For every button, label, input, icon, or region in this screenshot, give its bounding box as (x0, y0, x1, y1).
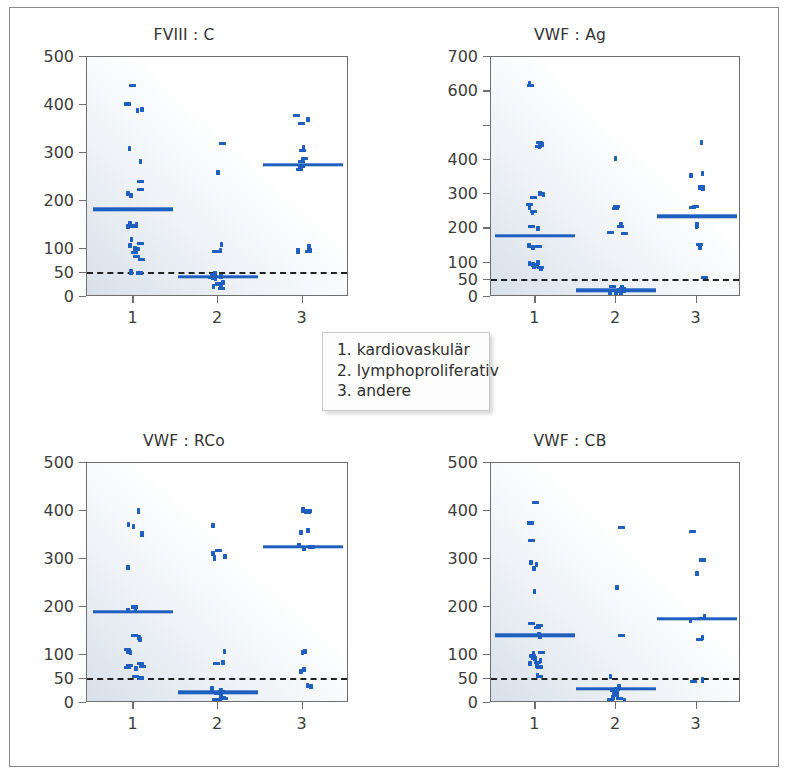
group-mean-bar (263, 163, 343, 166)
x-tick-label: 1 (529, 714, 539, 733)
y-tick-label: 400 (400, 501, 478, 520)
data-point (134, 666, 138, 671)
data-point (126, 224, 130, 229)
data-point (223, 649, 227, 654)
y-tick-label: 200 (20, 191, 74, 210)
data-point (617, 225, 624, 228)
data-point (215, 549, 222, 552)
x-tick-mark (302, 702, 303, 709)
data-point (531, 245, 535, 250)
data-point (221, 660, 225, 665)
x-tick-mark (696, 702, 697, 709)
data-point (130, 237, 134, 242)
data-point (211, 523, 215, 528)
data-point (532, 501, 539, 504)
data-point (296, 248, 300, 253)
group-mean-bar (576, 687, 656, 690)
data-point (527, 84, 534, 87)
y-tick-label: 50 (20, 263, 74, 282)
y-tick-label: 100 (20, 239, 74, 258)
x-tick-mark (217, 702, 218, 709)
data-point (221, 697, 228, 700)
y-tick-mark (79, 272, 86, 273)
data-point (223, 554, 227, 559)
data-point (219, 142, 226, 145)
x-tick-mark (696, 296, 697, 303)
x-tick-label: 3 (296, 714, 306, 733)
data-point (212, 284, 216, 289)
data-point (528, 661, 532, 666)
data-point (615, 585, 619, 590)
y-tick-label: 50 (400, 669, 478, 688)
y-tick-mark (483, 90, 490, 91)
group-mean-bar (657, 215, 737, 218)
y-tick-mark (79, 200, 86, 201)
data-point (137, 180, 144, 183)
y-tick-mark (79, 296, 86, 297)
y-tick-label: 50 (400, 269, 478, 288)
legend-line-2: 2. lymphoproliferativ (337, 361, 473, 382)
reference-line-50 (87, 678, 347, 680)
y-tick-label: 300 (400, 549, 478, 568)
group-mean-bar (93, 610, 173, 613)
data-point (689, 173, 693, 178)
data-point (696, 638, 703, 641)
y-tick-mark (79, 678, 86, 679)
plot-area-fviii-c (86, 56, 348, 296)
y-tick-mark (483, 279, 490, 280)
data-point (132, 524, 136, 529)
data-point (538, 144, 542, 149)
y-tick-label: 400 (20, 95, 74, 114)
x-tick-mark (615, 702, 616, 709)
data-point (137, 676, 144, 679)
data-point (542, 192, 546, 197)
data-point (528, 539, 535, 542)
y-tick-mark (483, 262, 490, 263)
x-tick-label: 3 (296, 308, 306, 327)
panel-title-vwf-ag: VWF : Ag (400, 26, 740, 44)
y-tick-label: 300 (20, 549, 74, 568)
data-point (298, 122, 305, 125)
data-point (623, 698, 627, 702)
x-tick-label: 1 (127, 308, 137, 327)
data-point (128, 243, 132, 248)
y-tick-label: 200 (400, 597, 478, 616)
y-tick-mark (79, 702, 86, 703)
y-tick-mark (79, 510, 86, 511)
data-point (306, 528, 310, 533)
data-point (701, 677, 705, 682)
figure-root: FVIII : C050100200300400500123 VWF : Ag0… (0, 0, 789, 777)
x-tick-mark (534, 296, 535, 303)
group-mean-bar (263, 545, 343, 548)
y-tick-label: 300 (400, 184, 478, 203)
x-tick-mark (217, 296, 218, 303)
data-point (219, 248, 223, 253)
data-point (612, 207, 619, 210)
x-tick-label: 2 (610, 308, 620, 327)
group-legend: 1. kardiovaskulär 2. lymphoproliferativ … (322, 332, 490, 411)
data-point (220, 242, 224, 247)
panel-vwf-rco: VWF : RCo050100200300400500123 (20, 432, 378, 747)
x-tick-label: 2 (212, 714, 222, 733)
group-mean-bar (495, 234, 575, 237)
x-tick-mark (615, 296, 616, 303)
data-point (689, 530, 696, 533)
data-point (137, 188, 144, 191)
data-point (130, 224, 137, 227)
y-tick-label: 0 (400, 693, 478, 712)
y-tick-label: 200 (400, 218, 478, 237)
data-point (539, 266, 543, 271)
x-tick-mark (302, 296, 303, 303)
panel-title-fviii-c: FVIII : C (20, 26, 348, 44)
y-tick-label: 100 (400, 252, 478, 271)
data-point (536, 226, 540, 231)
y-tick-label: 0 (20, 287, 74, 306)
y-tick-mark (483, 678, 490, 679)
data-point (607, 698, 614, 701)
data-point (136, 271, 143, 274)
data-point (140, 531, 144, 536)
panel-title-vwf-cb: VWF : CB (400, 432, 740, 450)
data-point (701, 276, 708, 279)
plot-area-vwf-cb (490, 462, 740, 702)
data-point (218, 287, 225, 290)
